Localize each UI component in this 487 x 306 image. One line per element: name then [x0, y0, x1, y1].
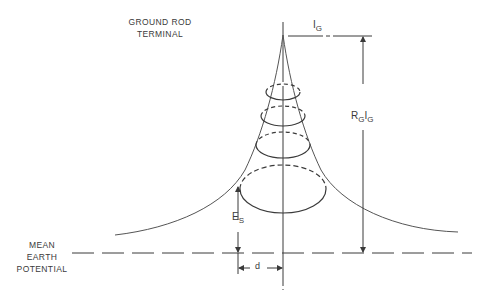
potential-curve-left [115, 35, 283, 235]
current-subscript: G [316, 24, 322, 33]
mean-earth-potential-label: MEAN EARTH POTENTIAL [12, 239, 72, 275]
current-label: IG [313, 19, 322, 33]
surface-potential-label: ES [232, 211, 244, 225]
current-subscript: G [367, 115, 373, 124]
ground-rod-terminal-label: GROUND ROD TERMINAL [118, 16, 202, 40]
potential-curve-right [283, 35, 458, 232]
potential-symbol: E [232, 211, 239, 222]
label-line: GROUND ROD [118, 16, 202, 28]
distance-label: d [255, 261, 260, 271]
label-line: POTENTIAL [12, 263, 72, 275]
potential-gradient-diagram [0, 0, 487, 306]
rod-potential-label: RGIG [351, 110, 373, 124]
label-line: TERMINAL [118, 28, 202, 40]
potential-subscript: S [239, 216, 244, 225]
label-line: MEAN [12, 239, 72, 251]
label-line: EARTH [12, 251, 72, 263]
